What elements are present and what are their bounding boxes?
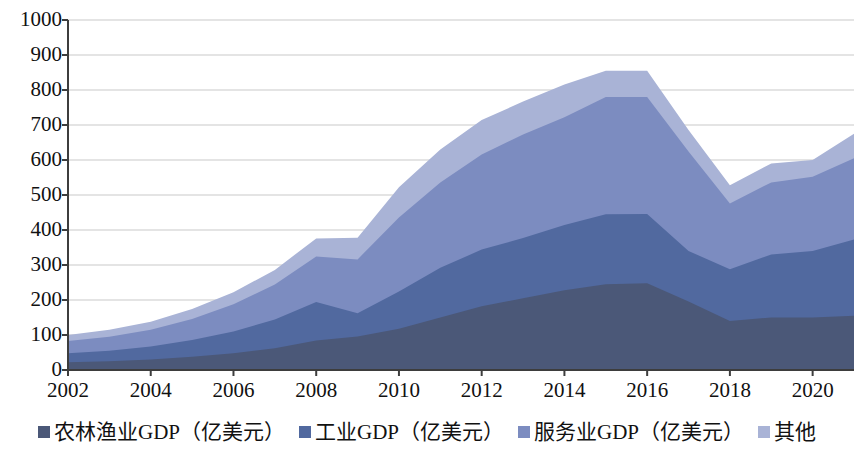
- y-tick-label-400: 400: [6, 219, 62, 240]
- y-tick-label-800: 800: [6, 79, 62, 100]
- y-tick-label-300: 300: [6, 254, 62, 275]
- legend-label-1: 农林渔业GDP（亿美元）: [54, 420, 285, 444]
- legend-item-3[interactable]: 服务业GDP（亿美元）: [518, 420, 744, 444]
- x-tick-label-2002: 2002: [47, 378, 89, 402]
- x-tick-label-2016: 2016: [626, 378, 668, 402]
- legend-swatch-services: [518, 426, 530, 438]
- legend-label-3: 服务业GDP（亿美元）: [534, 420, 744, 444]
- legend-item-4[interactable]: 其他: [758, 420, 816, 444]
- x-tick-label-2020: 2020: [792, 378, 834, 402]
- x-tick-label-2018: 2018: [709, 378, 751, 402]
- legend-swatch-industry: [299, 426, 311, 438]
- legend-label-2: 工业GDP（亿美元）: [315, 420, 504, 444]
- x-tick-label-2004: 2004: [130, 378, 172, 402]
- x-tick-label-2014: 2014: [543, 378, 585, 402]
- y-tick-label-200: 200: [6, 289, 62, 310]
- y-tick-label-900: 900: [6, 44, 62, 65]
- y-tick-label-0: 0: [6, 359, 62, 380]
- y-axis: 01002003004005006007008009001000: [0, 0, 62, 396]
- legend-swatch-other: [758, 426, 770, 438]
- x-tick-label-2010: 2010: [378, 378, 420, 402]
- legend-item-2[interactable]: 工业GDP（亿美元）: [299, 420, 504, 444]
- y-tick-label-700: 700: [6, 114, 62, 135]
- stacked-area-chart: 01002003004005006007008009001000 2002200…: [0, 0, 854, 450]
- y-tick-label-500: 500: [6, 184, 62, 205]
- x-tick-label-2008: 2008: [295, 378, 337, 402]
- legend-item-1[interactable]: 农林渔业GDP（亿美元）: [38, 420, 285, 444]
- chart-legend: 农林渔业GDP（亿美元）工业GDP（亿美元）服务业GDP（亿美元）其他: [0, 414, 854, 450]
- x-tick-label-2006: 2006: [212, 378, 254, 402]
- y-tick-label-1000: 1000: [6, 9, 62, 30]
- y-tick-label-600: 600: [6, 149, 62, 170]
- chart-canvas: [0, 0, 854, 396]
- plot-area: [0, 0, 854, 396]
- legend-swatch-agriculture: [38, 426, 50, 438]
- legend-label-4: 其他: [774, 420, 816, 444]
- x-axis: 2002200420062008201020122014201620182020: [0, 378, 854, 410]
- y-tick-label-100: 100: [6, 324, 62, 345]
- x-tick-label-2012: 2012: [461, 378, 503, 402]
